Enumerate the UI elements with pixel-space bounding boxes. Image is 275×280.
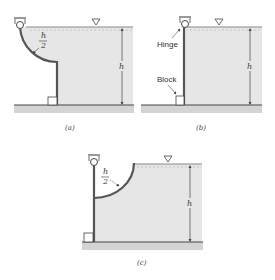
- free-surface-triangle-icon: [92, 19, 100, 25]
- free-surface-triangle-icon: [215, 19, 223, 25]
- hinge-icon: [179, 16, 191, 28]
- block: [48, 97, 57, 105]
- caption-b: (b): [196, 124, 206, 132]
- water-region: [20, 27, 133, 105]
- figure-a: h 2 h (a): [14, 17, 134, 132]
- block-label: Block: [157, 75, 178, 84]
- ground: [141, 105, 262, 113]
- caption-c: (c): [137, 259, 147, 267]
- ground: [14, 105, 134, 113]
- depth-label: h: [187, 199, 192, 208]
- block: [176, 96, 184, 105]
- free-surface-triangle-icon: [164, 156, 172, 162]
- figure-b: Hinge Block h (b): [141, 16, 262, 132]
- water-region: [95, 164, 202, 242]
- block: [84, 233, 93, 242]
- hinge-icon: [14, 17, 26, 29]
- radius-label-num: h: [41, 31, 46, 40]
- gate-diagrams: h 2 h (a) Hinge Block: [0, 0, 275, 280]
- radius-label-num: h: [103, 167, 108, 176]
- hinge-label: Hinge: [157, 40, 178, 49]
- hinge-icon: [88, 154, 100, 166]
- depth-label: h: [119, 62, 124, 71]
- ground: [82, 242, 203, 250]
- radius-label-den: 2: [102, 177, 108, 186]
- depth-label: h: [247, 62, 252, 71]
- figure-c: h 2 h (c): [82, 154, 203, 267]
- caption-a: (a): [65, 124, 75, 132]
- radius-label-den: 2: [40, 41, 46, 50]
